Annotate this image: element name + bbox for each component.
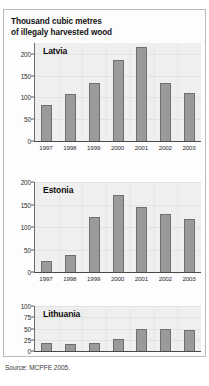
bar-slot [177,182,201,272]
bar-slot [130,43,154,141]
bar-slot [130,306,154,351]
figure-illegal-logging: Thousand cubic metres of illegaly harves… [0,0,209,386]
x-tick-label: 2003 [177,144,201,151]
bar [65,94,76,141]
x-tick-label: 1999 [82,275,106,282]
x-axis-latvia: 1997199819992000200120022003 [34,144,201,151]
x-tick-label: 1998 [58,275,82,282]
y-tick-label: 200 [21,179,31,186]
x-tick-label: 2000 [106,354,130,357]
plot-area-lithuania: Lithuania [34,306,201,352]
x-tick-label: 2002 [153,354,177,357]
bar [65,255,76,272]
bar [184,93,195,141]
y-tick-label: 100 [21,94,31,101]
chart-lithuania: 0255075100 Lithuania 1997199819992000200… [4,306,206,357]
y-tick-label: 100 [21,303,31,310]
chart-panel: Thousand cubic metres of illegaly harves… [3,9,206,357]
y-tick-label: 150 [21,72,31,79]
y-tick-label: 75 [24,314,31,321]
bar-slot [59,43,83,141]
chart-latvia: 050100150200 Latvia 19971998199920002001… [4,43,206,155]
x-tick-label: 2002 [153,144,177,151]
bar [160,329,171,351]
bar [41,261,52,272]
x-tick-label: 1998 [58,144,82,151]
x-axis-estonia: 1997199819992000200120022003 [34,275,201,282]
y-tick-label: 50 [24,246,31,253]
bar-slot [82,306,106,351]
clipped-top-text-strip [0,0,209,9]
x-tick-label: 2001 [129,354,153,357]
chart-title-line-1: Thousand cubic metres [11,17,102,26]
bar [113,195,124,272]
bar-slot [154,306,178,351]
bar [136,47,147,141]
bar-slot [177,306,201,351]
bar-slot [35,182,59,272]
x-axis-lithuania: 1997199819992000200120022003 [34,354,201,357]
bar [89,83,100,141]
country-label-latvia: Latvia [43,46,67,56]
bar [113,60,124,141]
bar-slot [59,182,83,272]
x-tick-label: 1999 [82,354,106,357]
y-tick-label: 150 [21,201,31,208]
bar [65,344,76,351]
chart-title-line-2: of illegaly harvested wood [11,28,191,39]
country-label-estonia: Estonia [43,185,73,195]
x-tick-label: 2000 [106,275,130,282]
bar-slot [82,43,106,141]
x-tick-label: 2000 [106,144,130,151]
chart-title: Thousand cubic metres of illegaly harves… [11,17,191,38]
bar [160,214,171,272]
bar [89,343,100,351]
bar [160,83,171,141]
y-axis-lithuania: 0255075100 [4,306,34,351]
bars-estonia [35,182,201,272]
y-tick-label: 50 [24,116,31,123]
bar-slot [154,43,178,141]
x-tick-label: 2003 [177,354,201,357]
x-tick-label: 2003 [177,275,201,282]
bar-slot [177,43,201,141]
bar [41,105,52,141]
bar [184,219,195,272]
bar-slot [106,306,130,351]
bar-slot [106,182,130,272]
y-tick-label: 25 [24,336,31,343]
x-tick-label: 2001 [129,144,153,151]
x-tick-label: 2002 [153,275,177,282]
bar [184,330,195,351]
bar [89,217,100,272]
country-label-lithuania: Lithuania [43,309,80,319]
y-tick-label: 50 [24,325,31,332]
bar [41,343,52,351]
x-tick-label: 2001 [129,275,153,282]
bar-slot [154,182,178,272]
y-tick-label: 200 [21,50,31,57]
bar [136,329,147,352]
bars-latvia [35,43,201,141]
bar-slot [106,43,130,141]
y-axis-latvia: 050100150200 [4,43,34,141]
x-tick-label: 1997 [34,275,58,282]
source-note: Source: MCPFE 2005. [5,364,70,371]
x-tick-label: 1998 [58,354,82,357]
bar-slot [35,43,59,141]
x-tick-label: 1997 [34,144,58,151]
chart-estonia: 050100150200 Estonia 1997199819992000200… [4,182,206,286]
bar [136,207,147,272]
plot-area-latvia: Latvia [34,43,201,142]
x-tick-label: 1997 [34,354,58,357]
bar-slot [82,182,106,272]
bar-slot [130,182,154,272]
bar [113,339,124,351]
y-axis-estonia: 050100150200 [4,182,34,272]
plot-area-estonia: Estonia [34,182,201,273]
y-tick-label: 100 [21,224,31,231]
x-tick-label: 1999 [82,144,106,151]
